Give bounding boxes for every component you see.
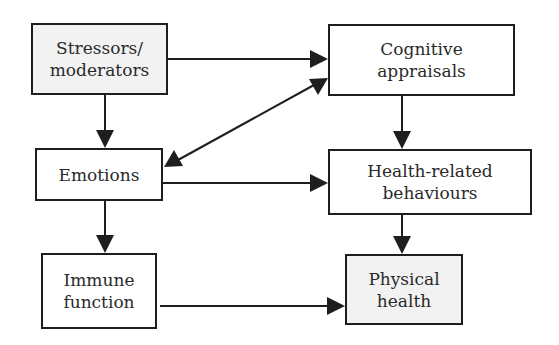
node-label-line: function [63,291,134,313]
node-health-related-behaviours: Health-related behaviours [328,149,532,215]
node-label-line: behaviours [382,182,477,204]
arrowhead-icon [327,297,345,315]
node-label-line: Emotions [59,164,140,186]
arrowhead-icon [310,174,328,192]
node-label-line: Cognitive [380,38,462,60]
node-label-line: Stressors/ [56,37,143,59]
arrowhead-icon [393,131,411,149]
edge-emotions-to-behaviours [163,174,328,192]
arrowhead-icon [96,235,114,253]
node-label-line: Physical [368,268,439,290]
node-physical-health: Physical health [345,254,463,325]
edge-behaviours-to-physical [393,215,411,254]
node-cognitive-appraisals: Cognitive appraisals [328,24,515,96]
arrowhead-icon [310,50,328,68]
edge-cognitive-to-behaviours [393,96,411,149]
node-label-line: Immune [64,269,135,291]
arrowhead-icon [96,130,114,148]
node-emotions: Emotions [35,148,163,201]
node-label-line: health [377,290,431,312]
edge-stressors-to-cognitive [168,50,328,68]
edge-emotions-cognitive-bidirectional [164,78,328,167]
node-label-line: moderators [50,59,149,81]
node-stressors-moderators: Stressors/ moderators [31,23,168,95]
node-label-line: Health-related [367,160,493,182]
edge-stressors-to-emotions [96,95,114,148]
edge-immune-to-physical [160,297,345,315]
diagram-canvas: Stressors/ moderators Cognitive appraisa… [0,0,559,345]
edge-emotions-to-immune [96,201,114,253]
arrowhead-icon [393,236,411,254]
node-label-line: appraisals [377,60,466,82]
node-immune-function: Immune function [41,253,157,329]
